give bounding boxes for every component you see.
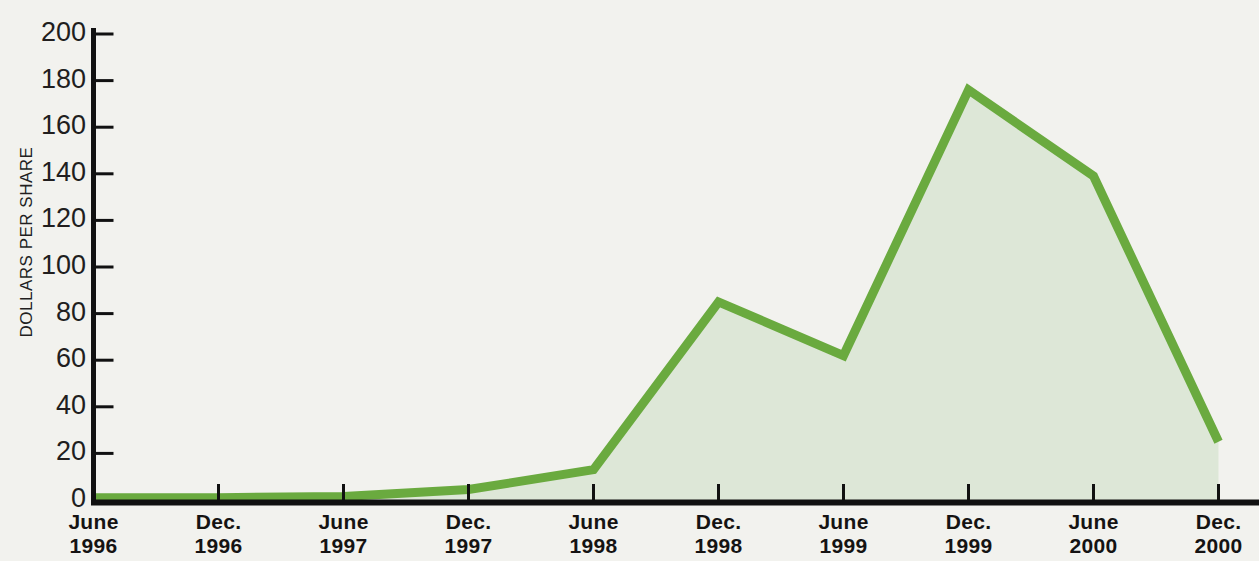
x-axis-tick-label-year: 1996 (32, 534, 156, 558)
x-axis-tick-label-month: June (532, 510, 656, 534)
x-axis-tick-label: June2000 (1032, 510, 1156, 557)
x-axis-tick-label-month: Dec. (657, 510, 781, 534)
x-axis-tick-label-month: June (32, 510, 156, 534)
x-axis-tick-label-year: 1998 (657, 534, 781, 558)
x-axis-tick-label-year: 1999 (907, 534, 1031, 558)
x-axis-tick-label-month: Dec. (157, 510, 281, 534)
x-axis-tick-label-month: June (1032, 510, 1156, 534)
x-axis-tick-label-year: 2000 (1157, 534, 1259, 558)
x-axis-tick-label-year: 1997 (407, 534, 531, 558)
x-axis-tick-label-month: Dec. (407, 510, 531, 534)
x-axis-tick-label-month: Dec. (1157, 510, 1259, 534)
x-axis-tick-label: June1997 (282, 510, 406, 557)
x-axis-tick-label: Dec.1996 (157, 510, 281, 557)
x-axis-tick-label: Dec.2000 (1157, 510, 1259, 557)
x-axis-tick-label-year: 1998 (532, 534, 656, 558)
y-axis-ticks (96, 34, 114, 453)
x-axis-tick-label: Dec.1997 (407, 510, 531, 557)
plot-area (0, 0, 1259, 561)
x-axis-tick-label-year: 2000 (1032, 534, 1156, 558)
x-axis-tick-label-month: Dec. (907, 510, 1031, 534)
area-fill (94, 90, 1219, 500)
x-axis-tick-label: Dec.1999 (907, 510, 1031, 557)
x-axis-tick-label: June1996 (32, 510, 156, 557)
x-axis-tick-label-year: 1996 (157, 534, 281, 558)
stock-price-area-chart: DOLLARS PER SHARE 0204060801001201401601… (0, 0, 1259, 561)
x-axis-tick-label-year: 1997 (282, 534, 406, 558)
x-axis-tick-label-year: 1999 (782, 534, 906, 558)
x-axis-tick-label: June1999 (782, 510, 906, 557)
x-axis-tick-label: Dec.1998 (657, 510, 781, 557)
x-axis-tick-label-month: June (282, 510, 406, 534)
x-axis-tick-label-month: June (782, 510, 906, 534)
x-axis-tick-label: June1998 (532, 510, 656, 557)
